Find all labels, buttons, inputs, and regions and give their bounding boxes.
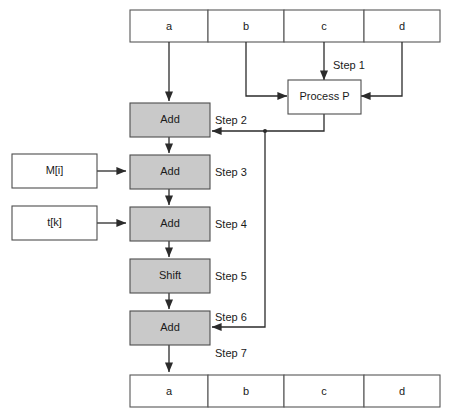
- connector-b-to-process: [246, 42, 287, 96]
- input-box-mi[interactable]: M[i]: [12, 154, 97, 188]
- top-register-label-c: c: [321, 20, 327, 32]
- pipeline-box-add-3[interactable]: Add: [130, 207, 210, 241]
- flow-diagram: a b c d Process P: [0, 0, 453, 418]
- step-label-4: Step 4: [215, 218, 247, 230]
- top-register-label-b: b: [243, 20, 249, 32]
- add-3-label: Add: [160, 217, 180, 229]
- add-2-label: Add: [160, 165, 180, 177]
- bottom-register-label-c: c: [321, 385, 327, 397]
- bottom-register-label-d: d: [399, 385, 405, 397]
- pipeline-box-shift[interactable]: Shift: [130, 259, 210, 293]
- add-1-label: Add: [160, 113, 180, 125]
- top-register: a b c d: [130, 10, 440, 42]
- top-register-label-a: a: [166, 20, 173, 32]
- shift-label: Shift: [159, 269, 181, 281]
- bottom-register-label-b: b: [243, 385, 249, 397]
- process-p-box[interactable]: Process P: [288, 80, 361, 114]
- bottom-register-label-a: a: [166, 385, 173, 397]
- top-register-label-d: d: [399, 20, 405, 32]
- step-label-5: Step 5: [215, 270, 247, 282]
- diagram-canvas: a b c d Process P: [0, 0, 453, 418]
- junction-dot-step2: [263, 129, 267, 133]
- step-label-6: Step 6: [215, 311, 247, 323]
- pipeline-box-add-2[interactable]: Add: [130, 155, 210, 189]
- step-label-3: Step 3: [215, 166, 247, 178]
- pipeline-box-add-1[interactable]: Add: [130, 103, 210, 137]
- process-p-label: Process P: [299, 90, 349, 102]
- input-box-tk[interactable]: t[k]: [12, 206, 97, 240]
- mi-label: M[i]: [46, 164, 64, 176]
- step-label-2: Step 2: [215, 114, 247, 126]
- pipeline-box-add-5[interactable]: Add: [130, 311, 210, 345]
- bottom-register: a b c d: [130, 375, 440, 407]
- step-label-7: Step 7: [215, 347, 247, 359]
- step-label-1: Step 1: [333, 59, 365, 71]
- add-5-label: Add: [160, 321, 180, 333]
- tk-label: t[k]: [47, 216, 62, 228]
- connector-d-to-process: [361, 42, 402, 96]
